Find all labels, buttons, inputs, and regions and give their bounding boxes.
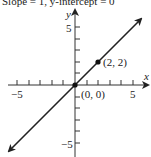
x-axis-label: x [143,70,149,82]
y-tick-label-5: 5 [66,22,72,34]
x-tick-label-5: 5 [130,88,136,100]
x-tick-label-neg5: −5 [11,88,23,100]
y-tick-label-neg5: −5 [61,138,73,150]
point-2-2-label: (2, 2) [103,56,127,69]
origin-point [72,82,77,87]
point-2-2 [95,59,100,64]
origin-label: (0, 0) [81,88,105,101]
coordinate-plane: y x 5 −5 −5 5 (0, 0) (2, 2) [0,0,151,157]
line-y-equals-x [75,19,141,85]
y-axis-label: y [65,8,71,20]
